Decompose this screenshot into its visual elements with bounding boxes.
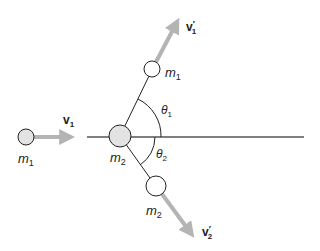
label-m1-after: m1 [165, 65, 181, 82]
ball-m1-before [18, 129, 34, 145]
ball-m2-before [109, 125, 131, 147]
label-m2-after: m2 [146, 203, 162, 220]
theta-2-arc [140, 137, 155, 165]
label-v2-prime: v′2 [202, 224, 213, 241]
velocity-2-prime-arrow [162, 194, 190, 232]
label-m2-before: m2 [110, 150, 126, 167]
label-m1-before: m1 [18, 151, 34, 168]
ball-m2-after [146, 176, 166, 196]
theta-1-arc [138, 99, 161, 137]
label-theta-2: θ2 [156, 147, 168, 163]
label-v1-prime: v′1 [186, 19, 197, 36]
label-theta-1: θ1 [161, 103, 173, 119]
velocity-1-prime-arrow [156, 24, 176, 62]
collision-diagram: m1 v1 m2 m1 m2 v′1 v′2 θ1 θ2 [0, 0, 320, 251]
ball-m1-after [144, 61, 160, 77]
label-v1: v1 [63, 113, 75, 129]
